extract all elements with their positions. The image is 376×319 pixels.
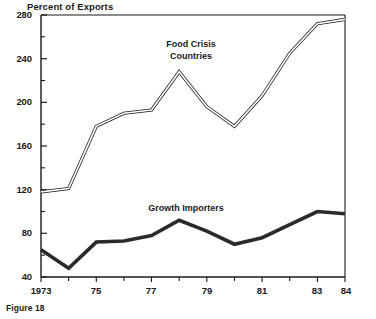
y-tick-label-160: 160 [4,140,32,151]
y-tick-label-120: 120 [4,184,32,195]
y-axis-major-ticks [41,15,47,277]
figure-caption: Figure 18 [6,303,45,313]
x-tick-label-1973: 1973 [23,285,59,296]
x-axis-ticks [41,277,345,282]
y-tick-label-240: 240 [4,53,32,64]
figure-container: Percent of Exports [0,0,376,319]
x-tick-label-81: 81 [250,285,274,296]
y-tick-label-80: 80 [4,227,32,238]
x-tick-label-79: 79 [195,285,219,296]
x-tick-label-84: 84 [335,285,357,296]
food-crisis-label-line1: Food Crisis [135,39,247,51]
series-growth-importers [41,212,345,269]
x-tick-label-75: 75 [84,285,108,296]
series-label-food-crisis-countries: Food Crisis Countries [135,39,247,62]
y-tick-label-40: 40 [4,271,32,282]
x-tick-label-83: 83 [305,285,329,296]
x-tick-label-77: 77 [139,285,163,296]
y-tick-label-200: 200 [4,96,32,107]
food-crisis-label-line2: Countries [135,51,247,63]
y-tick-label-280: 280 [4,9,32,20]
series-label-growth-importers: Growth Importers [126,203,246,214]
